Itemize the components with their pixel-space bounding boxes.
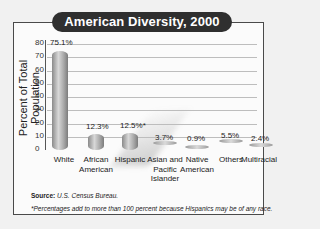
category-label: Multiracial — [237, 155, 281, 165]
bar — [122, 133, 138, 150]
value-label: 2.4% — [251, 134, 269, 143]
gridline — [47, 71, 257, 72]
y-tick-label: 0 — [35, 144, 47, 153]
chart-title: American Diversity, 2000 — [52, 12, 232, 32]
bar — [185, 145, 209, 149]
plot-area: 0102030405060708075.1%12.3%12.5%*3.7%0.9… — [35, 38, 261, 150]
value-label: 0.9% — [187, 134, 205, 143]
source-line: Source: U.S. Census Bureau. — [31, 192, 118, 199]
bar — [52, 51, 68, 151]
value-label: 75.1% — [50, 38, 73, 47]
gridline — [47, 57, 257, 58]
gridline — [47, 44, 257, 45]
y-tick-label: 50 — [35, 78, 47, 87]
bar — [249, 143, 273, 147]
value-label: 5.5% — [221, 131, 239, 140]
value-label: 12.3% — [86, 122, 109, 131]
y-tick-label: 20 — [35, 118, 47, 127]
value-label: 3.7% — [155, 133, 173, 142]
y-tick-label: 60 — [35, 65, 47, 74]
y-tick-label: 80 — [35, 38, 47, 47]
source-text: U.S. Census Bureau. — [57, 192, 118, 199]
gridline — [47, 84, 257, 85]
gridline — [47, 97, 257, 98]
gridline — [47, 110, 257, 111]
source-label: Source: — [31, 192, 55, 199]
y-tick-label: 30 — [35, 104, 47, 113]
y-tick-label: 40 — [35, 91, 47, 100]
footnote: *Percentages add to more than 100 percen… — [31, 205, 272, 212]
y-tick-label: 70 — [35, 51, 47, 60]
gridline — [47, 124, 257, 125]
value-label: 12.5%* — [120, 121, 146, 130]
bar — [88, 134, 104, 150]
y-tick-label: 10 — [35, 131, 47, 140]
